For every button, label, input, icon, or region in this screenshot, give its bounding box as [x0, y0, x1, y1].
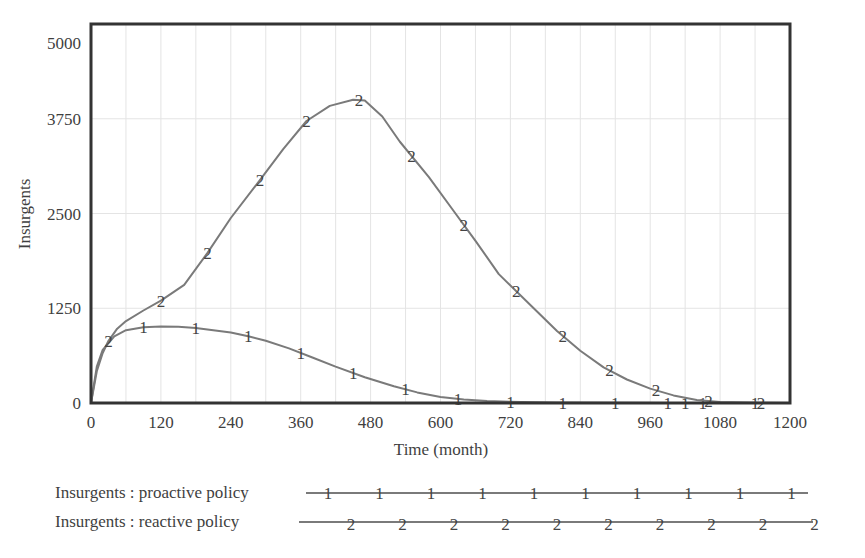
x-tick-label: 720: [498, 413, 524, 432]
legend: Insurgents : proactive policy 1111111111…: [55, 483, 819, 534]
series-marker-1: 1: [454, 390, 463, 409]
series-marker-2: 2: [157, 292, 166, 311]
series-marker-2: 2: [407, 147, 416, 166]
series-marker-2: 2: [104, 332, 113, 351]
x-tick-label: 360: [288, 413, 314, 432]
series-marker-1: 1: [139, 318, 148, 337]
series-marker-2: 2: [512, 282, 521, 301]
y-tick-label: 5000: [47, 34, 81, 53]
legend-marker-1: 1: [736, 484, 745, 503]
x-tick-label: 840: [568, 413, 594, 432]
legend-line-reactive: 2222222222: [299, 515, 819, 534]
y-axis-ticks: 01250250037505000: [47, 34, 81, 413]
x-tick-label: 240: [218, 413, 244, 432]
grid-lines: [91, 24, 790, 403]
legend-marker-1: 1: [478, 484, 487, 503]
series-marker-1: 1: [192, 319, 201, 338]
x-tick-label: 960: [637, 413, 663, 432]
series-marker-2: 2: [605, 361, 614, 380]
series-marker-2: 2: [652, 381, 661, 400]
legend-marker-2: 2: [810, 515, 819, 534]
legend-marker-1: 1: [427, 484, 436, 503]
legend-marker-2: 2: [707, 515, 716, 534]
series-marker-1: 1: [349, 364, 358, 383]
x-tick-label: 0: [87, 413, 96, 432]
legend-marker-2: 2: [656, 515, 665, 534]
legend-marker-1: 1: [324, 484, 333, 503]
legend-marker-2: 2: [553, 515, 562, 534]
series-marker-2: 2: [203, 244, 212, 263]
x-axis-label: Time (month): [394, 440, 488, 459]
legend-marker-1: 1: [530, 484, 539, 503]
x-axis-ticks: 012024036048060072084096010801200: [87, 413, 807, 432]
y-tick-label: 2500: [47, 205, 81, 224]
legend-marker-2: 2: [398, 515, 407, 534]
series-marker-2: 2: [460, 216, 469, 235]
legend-item-proactive: Insurgents : proactive policy 1111111111: [55, 483, 808, 503]
legend-marker-1: 1: [684, 484, 693, 503]
y-tick-label: 3750: [47, 110, 81, 129]
legend-label-proactive: Insurgents : proactive policy: [55, 483, 249, 502]
legend-marker-1: 1: [787, 484, 796, 503]
legend-marker-1: 1: [581, 484, 590, 503]
y-axis-label: Insurgents: [15, 179, 34, 250]
series-marker-2: 2: [704, 392, 713, 411]
series-marker-2: 2: [355, 91, 364, 110]
x-tick-label: 480: [358, 413, 384, 432]
legend-item-reactive: Insurgents : reactive policy 2222222222: [55, 512, 819, 534]
y-tick-label: 0: [73, 394, 82, 413]
legend-marker-2: 2: [604, 515, 613, 534]
x-tick-label: 120: [148, 413, 174, 432]
series-marker-1: 1: [401, 380, 410, 399]
legend-marker-1: 1: [633, 484, 642, 503]
legend-marker-2: 2: [501, 515, 510, 534]
legend-marker-2: 2: [450, 515, 459, 534]
x-tick-label: 1200: [773, 413, 807, 432]
series-marker-2: 2: [559, 327, 568, 346]
x-tick-label: 1080: [703, 413, 737, 432]
x-tick-label: 600: [428, 413, 454, 432]
legend-marker-2: 2: [347, 515, 356, 534]
series-marker-1: 1: [296, 344, 305, 363]
series-marker-1: 1: [244, 327, 253, 346]
legend-line-proactive: 1111111111: [306, 484, 808, 503]
line-chart: 1111111111111122222222222222 01250250037…: [0, 0, 865, 558]
legend-marker-2: 2: [759, 515, 768, 534]
series-marker-2: 2: [302, 112, 311, 131]
y-tick-label: 1250: [47, 299, 81, 318]
legend-label-reactive: Insurgents : reactive policy: [55, 512, 240, 531]
series-marker-2: 2: [256, 171, 265, 190]
legend-marker-1: 1: [375, 484, 384, 503]
